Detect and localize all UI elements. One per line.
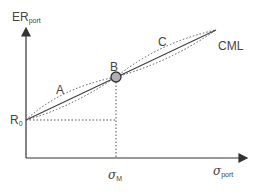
x-axis-arrow-icon — [239, 154, 247, 162]
sigma-m-label: σM — [108, 168, 122, 182]
point-a-label: A — [56, 83, 64, 97]
r0-label: R0 — [10, 113, 23, 127]
y-axis-label: ERport — [12, 10, 41, 24]
y-axis-arrow-icon — [22, 28, 30, 36]
cml-label: CML — [218, 39, 243, 53]
point-b-label: B — [110, 60, 118, 74]
point-c-label: C — [158, 35, 167, 49]
guide-lines — [26, 82, 116, 158]
x-axis-label: σport — [213, 164, 233, 178]
